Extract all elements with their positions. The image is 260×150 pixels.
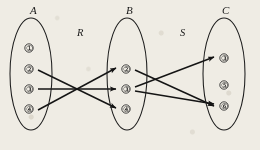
relation-label-s: S [180,27,186,38]
set-label-b: B [126,4,133,16]
set-label-c: C [222,4,230,16]
relation-edge-s-2 [135,91,214,104]
set-boundary-c [203,18,245,130]
relation-label-r: R [76,27,84,38]
set-b: ②③④ [107,18,147,130]
set-c: ③⑤⑥ [203,18,245,130]
relation-diagram-svg: ①②③④②③④③⑤⑥ ABCRS [0,0,260,150]
labels-group: ABCRS [29,4,230,38]
set-label-a: A [29,4,37,16]
diagram-canvas: ①②③④②③④③⑤⑥ ABCRS [0,0,260,150]
